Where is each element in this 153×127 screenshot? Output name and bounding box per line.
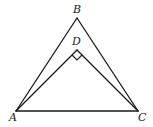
label-a: A [8,111,17,124]
label-c: C [138,111,147,124]
segment-dc [77,50,138,111]
triangle-diagram: B D A C [0,0,153,127]
right-angle-marker-icon [72,55,82,60]
segment-ad [16,50,77,111]
label-b: B [72,3,81,16]
label-d: D [71,35,81,48]
segment-ab [16,18,77,111]
segment-bc [77,18,138,111]
